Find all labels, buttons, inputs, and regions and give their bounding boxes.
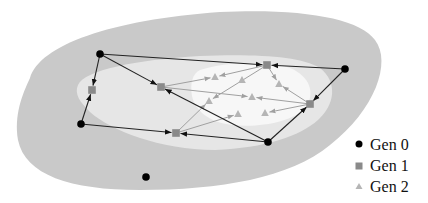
gen1-square-node	[172, 129, 180, 137]
legend-label-gen1: Gen 1	[370, 157, 409, 174]
legend-item-gen1: Gen 1	[356, 157, 409, 174]
gen1-square-node	[88, 86, 96, 94]
gen0-circle-node	[142, 173, 150, 181]
circle-icon	[356, 141, 363, 148]
legend-label-gen0: Gen 0	[370, 136, 409, 153]
gen0-circle-node	[264, 138, 272, 146]
gen0-circle-node	[96, 50, 104, 58]
gen1-square-node	[306, 100, 314, 108]
gen1-square-node	[263, 61, 271, 69]
legend-label-gen2: Gen 2	[370, 178, 409, 195]
inner-region	[191, 63, 310, 126]
generation-diagram: Gen 0 Gen 1 Gen 2	[0, 0, 428, 203]
gen0-circle-node	[77, 120, 85, 128]
gen1-square-node	[157, 83, 165, 91]
triangle-icon	[356, 183, 363, 189]
legend-item-gen2: Gen 2	[356, 178, 409, 195]
legend-item-gen0: Gen 0	[356, 136, 409, 153]
legend: Gen 0 Gen 1 Gen 2	[356, 136, 409, 195]
square-icon	[356, 163, 363, 170]
gen0-circle-node	[341, 65, 349, 73]
